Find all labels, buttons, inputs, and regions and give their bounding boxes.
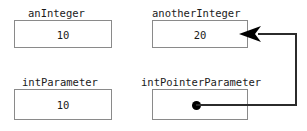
pointer-link-horizontal-from-dot (196, 104, 297, 106)
arrow-head-left-icon (238, 25, 262, 43)
pointer-memory-diagram: anInteger 10 anotherInteger 20 intParame… (0, 0, 307, 131)
pointer-link-horizontal-into-arrow (258, 33, 297, 35)
variable-value-another-integer: 20 (152, 29, 248, 41)
variable-value-an-integer: 10 (14, 29, 112, 41)
variable-label-int-parameter: intParameter (22, 76, 98, 88)
variable-value-int-parameter: 10 (14, 99, 112, 111)
pointer-link-vertical-riser (295, 34, 297, 106)
variable-label-int-pointer-parameter: intPointerParameter (141, 76, 261, 88)
variable-label-an-integer: anInteger (28, 7, 85, 19)
variable-label-another-integer: anotherInteger (152, 7, 241, 19)
